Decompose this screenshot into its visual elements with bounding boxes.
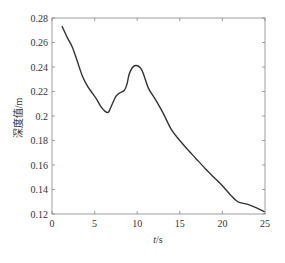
line-chart: 0.120.140.160.180.20.220.240.260.28 0510… [0, 0, 285, 263]
x-tick-label: 5 [92, 218, 97, 229]
y-tick-label: 0.18 [31, 135, 49, 146]
y-tick-label: 0.12 [31, 209, 49, 220]
y-axis-ticks: 0.120.140.160.180.20.220.240.260.28 [31, 13, 266, 220]
x-tick-label: 0 [50, 218, 55, 229]
x-tick-label: 10 [132, 218, 142, 229]
x-tick-label: 20 [217, 218, 227, 229]
y-tick-label: 0.16 [31, 160, 49, 171]
x-axis-ticks: 0510152025 [50, 18, 271, 229]
y-tick-label: 0.26 [31, 37, 49, 48]
y-tick-label: 0.24 [31, 62, 49, 73]
x-tick-label: 25 [260, 218, 270, 229]
x-axis-label: t/s [153, 234, 163, 245]
x-tick-label: 15 [175, 218, 185, 229]
y-tick-label: 0.22 [31, 86, 49, 97]
y-tick-label: 0.2 [36, 111, 49, 122]
plot-frame [52, 18, 265, 214]
y-axis-label: 深度值/m [12, 98, 24, 139]
y-tick-label: 0.28 [31, 13, 49, 24]
data-series-line [62, 27, 264, 212]
y-tick-label: 0.14 [31, 184, 49, 195]
